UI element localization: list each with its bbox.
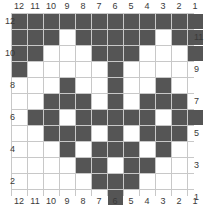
grid-cell[interactable] <box>156 110 171 125</box>
grid-cell[interactable] <box>92 174 107 189</box>
grid-cell[interactable] <box>124 14 139 29</box>
grid-cell[interactable] <box>60 94 75 109</box>
grid-cell[interactable] <box>140 110 155 125</box>
grid-cell[interactable] <box>28 174 43 189</box>
grid-cell[interactable] <box>108 46 123 61</box>
grid-cell[interactable] <box>172 158 187 173</box>
grid-cell[interactable] <box>76 174 91 189</box>
grid-cell[interactable] <box>44 14 59 29</box>
grid-cell[interactable] <box>92 62 107 77</box>
grid-cell[interactable] <box>124 174 139 189</box>
grid-cell[interactable] <box>76 110 91 125</box>
grid-cell[interactable] <box>12 62 27 77</box>
grid-cell[interactable] <box>76 94 91 109</box>
grid-cell[interactable] <box>28 126 43 141</box>
grid-cell[interactable] <box>44 174 59 189</box>
grid-cell[interactable] <box>92 126 107 141</box>
grid-cell[interactable] <box>44 30 59 45</box>
grid-cell[interactable] <box>44 126 59 141</box>
grid-cell[interactable] <box>92 158 107 173</box>
grid-cell[interactable] <box>156 46 171 61</box>
grid-cell[interactable] <box>108 94 123 109</box>
grid-cell[interactable] <box>108 158 123 173</box>
grid-cell[interactable] <box>140 30 155 45</box>
grid-cell[interactable] <box>76 62 91 77</box>
grid-cell[interactable] <box>172 110 187 125</box>
grid-cell[interactable] <box>92 30 107 45</box>
grid-cell[interactable] <box>28 62 43 77</box>
grid-cell[interactable] <box>44 62 59 77</box>
grid-cell[interactable] <box>156 14 171 29</box>
grid-cell[interactable] <box>156 142 171 157</box>
grid-cell[interactable] <box>108 14 123 29</box>
grid-cell[interactable] <box>140 62 155 77</box>
grid-cell[interactable] <box>124 126 139 141</box>
grid-cell[interactable] <box>108 142 123 157</box>
grid-cell[interactable] <box>188 46 203 61</box>
grid-cell[interactable] <box>188 14 203 29</box>
grid-cell[interactable] <box>172 174 187 189</box>
grid-cell[interactable] <box>60 142 75 157</box>
grid-cell[interactable] <box>12 126 27 141</box>
grid-cell[interactable] <box>188 142 203 157</box>
grid-cell[interactable] <box>60 62 75 77</box>
grid-cell[interactable] <box>140 78 155 93</box>
grid-cell[interactable] <box>92 78 107 93</box>
grid-cell[interactable] <box>172 46 187 61</box>
grid-cell[interactable] <box>12 94 27 109</box>
grid-cell[interactable] <box>140 14 155 29</box>
grid-cell[interactable] <box>44 46 59 61</box>
grid-cell[interactable] <box>172 30 187 45</box>
grid-cell[interactable] <box>92 46 107 61</box>
grid-cell[interactable] <box>28 110 43 125</box>
grid-cell[interactable] <box>44 110 59 125</box>
grid-cell[interactable] <box>12 30 27 45</box>
grid-cell[interactable] <box>44 158 59 173</box>
grid-cell[interactable] <box>60 14 75 29</box>
grid-cell[interactable] <box>44 142 59 157</box>
grid-cell[interactable] <box>108 78 123 93</box>
pattern-grid[interactable] <box>11 13 194 196</box>
grid-cell[interactable] <box>76 14 91 29</box>
grid-cell[interactable] <box>188 110 203 125</box>
grid-cell[interactable] <box>92 142 107 157</box>
grid-cell[interactable] <box>76 158 91 173</box>
grid-cell[interactable] <box>124 46 139 61</box>
grid-cell[interactable] <box>156 30 171 45</box>
grid-cell[interactable] <box>188 78 203 93</box>
grid-cell[interactable] <box>76 126 91 141</box>
grid-cell[interactable] <box>28 14 43 29</box>
grid-cell[interactable] <box>76 46 91 61</box>
grid-cell[interactable] <box>92 110 107 125</box>
grid-cell[interactable] <box>108 62 123 77</box>
grid-cell[interactable] <box>188 174 203 189</box>
grid-cell[interactable] <box>124 62 139 77</box>
grid-cell[interactable] <box>60 158 75 173</box>
grid-cell[interactable] <box>60 174 75 189</box>
grid-cell[interactable] <box>156 94 171 109</box>
grid-cell[interactable] <box>108 110 123 125</box>
grid-cell[interactable] <box>124 30 139 45</box>
grid-cell[interactable] <box>140 126 155 141</box>
grid-cell[interactable] <box>124 94 139 109</box>
grid-cell[interactable] <box>156 126 171 141</box>
grid-cell[interactable] <box>156 62 171 77</box>
grid-cell[interactable] <box>172 14 187 29</box>
grid-cell[interactable] <box>172 62 187 77</box>
grid-cell[interactable] <box>172 94 187 109</box>
grid-cell[interactable] <box>60 30 75 45</box>
grid-cell[interactable] <box>76 30 91 45</box>
grid-cell[interactable] <box>140 174 155 189</box>
grid-cell[interactable] <box>12 158 27 173</box>
grid-cell[interactable] <box>28 78 43 93</box>
grid-cell[interactable] <box>124 158 139 173</box>
grid-cell[interactable] <box>124 142 139 157</box>
grid-cell[interactable] <box>172 126 187 141</box>
grid-cell[interactable] <box>28 30 43 45</box>
grid-cell[interactable] <box>124 78 139 93</box>
grid-cell[interactable] <box>140 94 155 109</box>
grid-cell[interactable] <box>108 126 123 141</box>
grid-cell[interactable] <box>140 158 155 173</box>
grid-cell[interactable] <box>44 94 59 109</box>
grid-cell[interactable] <box>44 78 59 93</box>
